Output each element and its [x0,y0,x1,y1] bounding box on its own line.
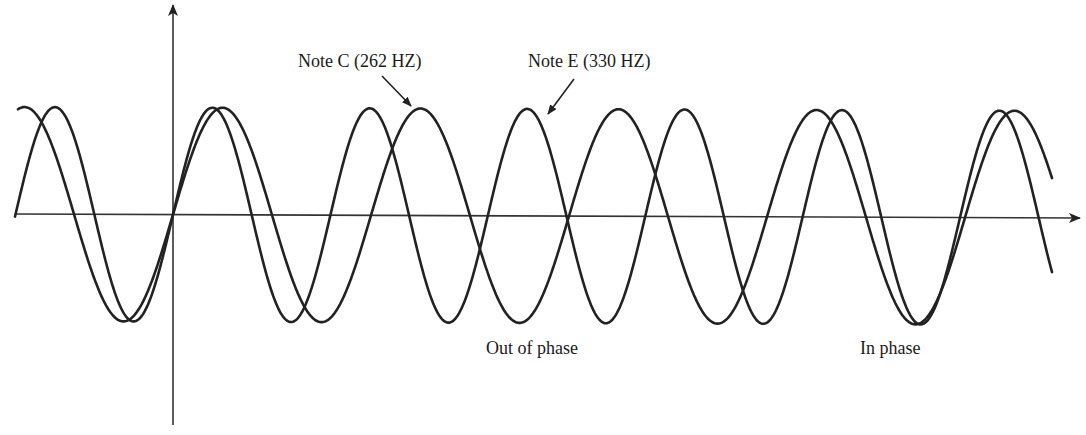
in-phase-label: In phase [860,339,920,357]
note-e-label: Note E (330 HZ) [528,52,650,70]
note-c-label: Note C (262 HZ) [298,52,421,70]
note-c-pointer-arrow [382,76,411,106]
x-axis [16,214,1080,218]
out-of-phase-label: Out of phase [486,339,578,357]
note-e-pointer-arrow [548,79,574,114]
